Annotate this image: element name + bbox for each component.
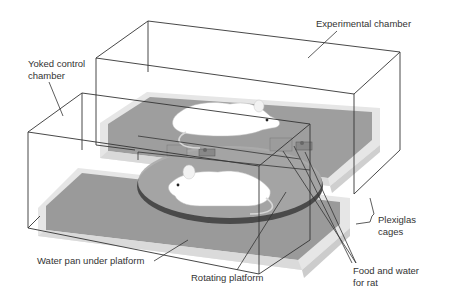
label-plexiglas-cages: Plexiglas cages [378, 214, 416, 238]
label-yoked-control-chamber: Yoked control chamber [28, 58, 85, 82]
experimental-chamber-leader [308, 31, 337, 58]
label-experimental-chamber: Experimental chamber [316, 18, 411, 30]
label-water-pan: Water pan under platform [37, 255, 144, 267]
label-rotating-platform: Rotating platform [191, 272, 263, 284]
label-food-water: Food and water for rat [353, 265, 419, 289]
